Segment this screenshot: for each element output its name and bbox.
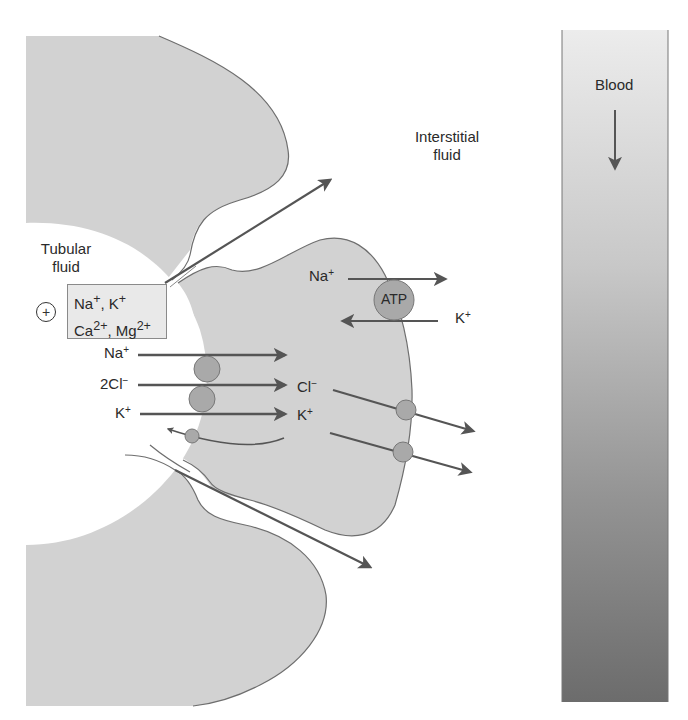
tubular-fluid-label-line1: Tubular — [36, 240, 96, 258]
cations-line-1: Na+, K+ — [74, 288, 166, 315]
diagram-canvas: Tubular fluid Interstitial fluid Blood +… — [0, 0, 688, 720]
tubular-fluid-label: Tubular fluid — [36, 240, 96, 276]
pump-label-k: K+ — [455, 309, 471, 327]
romk-channel — [185, 429, 199, 443]
k-channel — [393, 442, 413, 462]
interstitial-fluid-label: Interstitial fluid — [402, 128, 492, 164]
epithelial-cell — [175, 238, 412, 536]
atp-label: ATP — [374, 291, 414, 307]
intracellular-label-cl: Cl− — [297, 378, 317, 396]
interstitial-fluid-label-line1: Interstitial — [402, 128, 492, 146]
paracellular-cations-box: Na+, K+ Ca2+, Mg2+ — [67, 284, 167, 339]
cations-line-2: Ca2+, Mg2+ — [74, 315, 166, 342]
blood-label: Blood — [595, 76, 633, 94]
cotransport-label-k: K+ — [115, 404, 131, 422]
cl-channel — [396, 400, 416, 420]
intracellular-label-k: K+ — [297, 406, 313, 424]
tubular-fluid-label-line2: fluid — [36, 258, 96, 276]
interstitial-fluid-label-line2: fluid — [402, 146, 492, 164]
pump-label-na: Na+ — [309, 267, 334, 285]
cotransport-label-cl: 2Cl− — [100, 375, 128, 393]
cotransport-label-na: Na+ — [104, 344, 129, 362]
positive-charge-icon: + — [36, 302, 56, 322]
nkcc2-transporter-bottom — [189, 386, 215, 412]
nkcc2-transporter-top — [194, 356, 220, 382]
